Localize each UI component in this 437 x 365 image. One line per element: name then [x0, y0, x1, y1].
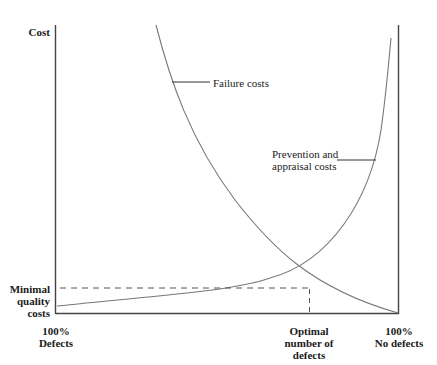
failure-costs-label: Failure costs	[213, 77, 269, 89]
optimal-defects-label: Optimal number of defects	[276, 325, 342, 361]
cost-quality-diagram	[0, 0, 437, 365]
y-axis-label: Cost	[10, 26, 50, 38]
x-right-label: 100% No defects	[368, 325, 430, 349]
x-left-label: 100% Defects	[36, 325, 76, 349]
minimal-quality-costs-label: Minimal quality costs	[0, 283, 50, 319]
prevention-appraisal-label: Prevention and appraisal costs	[272, 148, 336, 172]
